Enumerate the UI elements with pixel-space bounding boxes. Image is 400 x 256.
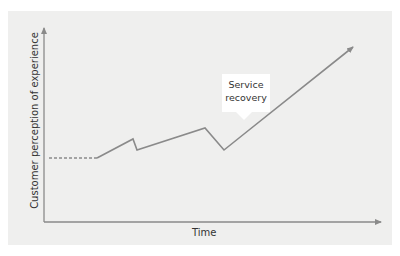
callout-pointer <box>236 112 252 120</box>
y-axis-label: Customer perception of experience <box>29 21 40 221</box>
x-axis-label: Time <box>192 227 216 238</box>
service-recovery-diagram <box>0 0 400 256</box>
service-recovery-callout: Service recovery <box>222 74 270 112</box>
